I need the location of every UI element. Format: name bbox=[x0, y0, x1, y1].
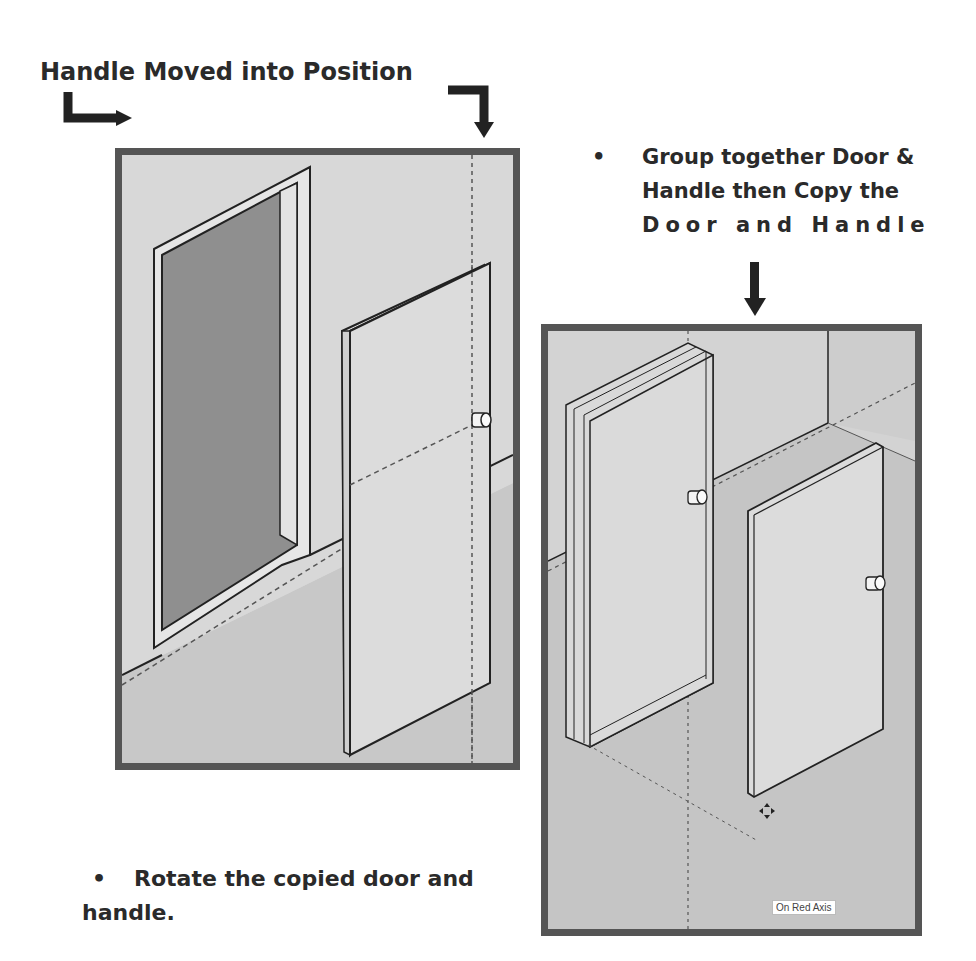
step2-line-1: Group together Door & bbox=[592, 140, 976, 174]
step2-line-2: Handle then Copy the bbox=[592, 174, 976, 208]
arrow-down-icon bbox=[743, 262, 767, 318]
bullet: • bbox=[92, 862, 106, 896]
step2-line-3: Door and Handle bbox=[592, 208, 976, 242]
step2-note: • Group together Door & Handle then Copy… bbox=[592, 140, 976, 242]
door-handle-icon bbox=[866, 576, 885, 590]
arrow-right-icon bbox=[60, 92, 140, 132]
viewport-handle-placement bbox=[115, 148, 520, 770]
door-handle-icon bbox=[688, 490, 707, 504]
viewport-copy-rotate bbox=[541, 324, 922, 936]
step3-line-1: • Rotate the copied door and bbox=[92, 862, 474, 896]
step1-title: Handle Moved into Position bbox=[40, 58, 413, 86]
arrow-down-icon bbox=[448, 82, 498, 142]
step3-text: Rotate the copied door and bbox=[134, 866, 474, 891]
step3-line-2: handle. bbox=[82, 896, 474, 930]
bullet: • bbox=[592, 140, 605, 174]
inference-tooltip: On Red Axis bbox=[772, 900, 836, 915]
door-scene-1 bbox=[122, 155, 513, 763]
door-handle-icon bbox=[472, 413, 491, 427]
step3-note: • Rotate the copied door and handle. bbox=[92, 862, 474, 930]
door-scene-2 bbox=[548, 331, 915, 929]
